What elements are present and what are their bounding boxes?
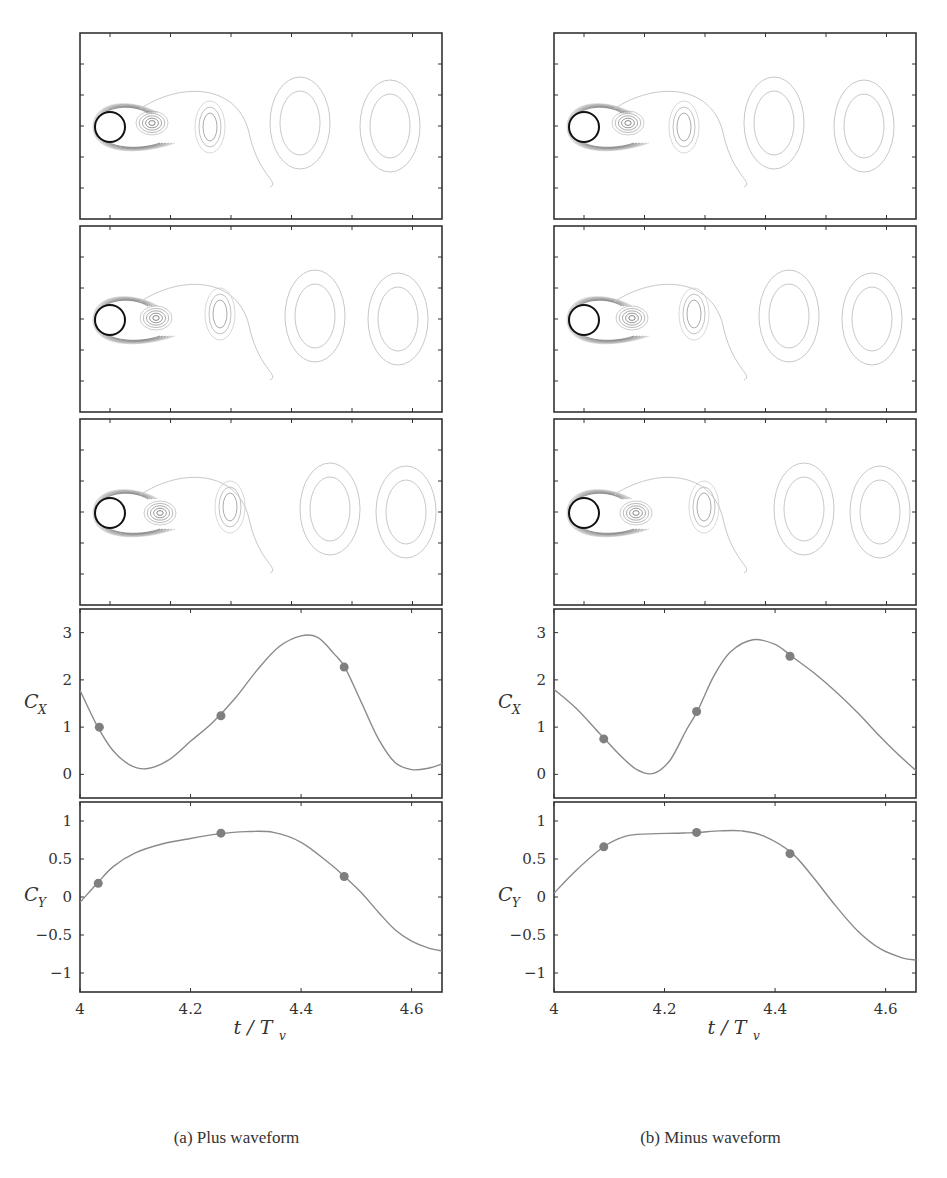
snapshot-marker — [216, 829, 225, 838]
cy-panel-b: 44.24.44.6−1−0.500.51CY — [498, 802, 916, 1018]
cylinder — [95, 498, 125, 528]
cylinder — [569, 305, 599, 335]
snapshot-marker — [94, 879, 103, 888]
cx-panel-a: 0123CX — [24, 609, 442, 798]
plot-frame — [80, 802, 442, 992]
y-tick-label: 0.5 — [522, 850, 546, 868]
y-axis-label: C — [498, 690, 513, 712]
x-axis-label-subscript: v — [279, 1029, 286, 1043]
y-tick-label: 2 — [536, 671, 546, 689]
y-tick-label: 0 — [536, 888, 546, 906]
y-tick-label: 1 — [62, 812, 72, 830]
y-tick-label: 0.5 — [48, 850, 72, 868]
vorticity-snapshot-1 — [80, 33, 442, 219]
caption-b: (b) Minus waveform — [474, 1128, 947, 1148]
x-tick-label: 4.6 — [400, 1000, 424, 1018]
cx-panel-b: 0123CX — [498, 609, 916, 798]
plot-frame — [554, 609, 916, 798]
snapshot-marker — [95, 723, 104, 732]
x-tick-label: 4.4 — [289, 1000, 313, 1018]
y-axis-label-subscript: X — [37, 703, 47, 717]
plot-frame — [80, 609, 442, 798]
snapshot-frame — [554, 226, 916, 412]
x-tick-label: 4.2 — [179, 1000, 203, 1018]
x-axis-label: t / T — [234, 1016, 274, 1038]
snapshot-marker — [340, 663, 349, 672]
y-axis-label-subscript: Y — [38, 896, 47, 910]
vorticity-snapshot-3 — [554, 419, 916, 605]
cylinder — [569, 112, 599, 142]
snapshot-marker — [692, 828, 701, 837]
y-tick-label: 3 — [62, 624, 72, 642]
snapshot-marker — [599, 734, 608, 743]
cy-panel-a: 44.24.44.6−1−0.500.51CY — [24, 802, 442, 1018]
caption-a: (a) Plus waveform — [0, 1128, 473, 1148]
vorticity-snapshot-2 — [554, 226, 916, 412]
y-tick-label: −1 — [524, 964, 546, 982]
x-axis-label: t / T — [708, 1016, 748, 1038]
cylinder — [95, 305, 125, 335]
y-axis-label: C — [498, 883, 513, 905]
x-tick-label: 4 — [549, 1000, 559, 1018]
y-tick-label: 0 — [536, 765, 546, 783]
snapshot-frame — [80, 33, 442, 219]
y-axis-label: C — [24, 883, 39, 905]
snapshot-frame — [554, 33, 916, 219]
vorticity-snapshot-3 — [80, 419, 442, 605]
x-tick-label: 4.4 — [763, 1000, 787, 1018]
x-tick-label: 4.2 — [653, 1000, 677, 1018]
snapshot-marker — [785, 849, 794, 858]
y-tick-label: −0.5 — [510, 926, 546, 944]
snapshot-marker — [785, 652, 794, 661]
cylinder — [569, 498, 599, 528]
y-axis-label-subscript: Y — [512, 896, 521, 910]
snapshot-marker — [216, 711, 225, 720]
y-tick-label: 0 — [62, 765, 72, 783]
y-tick-label: −0.5 — [36, 926, 72, 944]
x-axis-label-subscript: v — [753, 1029, 760, 1043]
y-tick-label: 3 — [536, 624, 546, 642]
subfigure-a-plots: 0123CX44.24.44.6−1−0.500.51CYt / Tv — [0, 0, 473, 1178]
y-tick-label: 1 — [536, 812, 546, 830]
snapshot-marker — [692, 707, 701, 716]
y-tick-label: 2 — [62, 671, 72, 689]
y-axis-label: C — [24, 690, 39, 712]
y-tick-label: 1 — [536, 718, 546, 736]
y-tick-label: 0 — [62, 888, 72, 906]
y-tick-label: −1 — [50, 964, 72, 982]
y-axis-label-subscript: X — [511, 703, 521, 717]
vorticity-snapshot-1 — [554, 33, 916, 219]
snapshot-marker — [340, 872, 349, 881]
snapshot-frame — [80, 419, 442, 605]
y-tick-label: 1 — [62, 718, 72, 736]
vorticity-snapshot-2 — [80, 226, 442, 412]
x-tick-label: 4 — [75, 1000, 85, 1018]
subfigure-b: 0123CX44.24.44.6−1−0.500.51CYt / Tv (b) … — [474, 0, 947, 1178]
cylinder — [95, 112, 125, 142]
subfigure-a: 0123CX44.24.44.6−1−0.500.51CYt / Tv (a) … — [0, 0, 473, 1178]
snapshot-frame — [554, 419, 916, 605]
x-tick-label: 4.6 — [874, 1000, 898, 1018]
subfigure-b-plots: 0123CX44.24.44.6−1−0.500.51CYt / Tv — [474, 0, 947, 1178]
snapshot-frame — [80, 226, 442, 412]
snapshot-marker — [599, 842, 608, 851]
